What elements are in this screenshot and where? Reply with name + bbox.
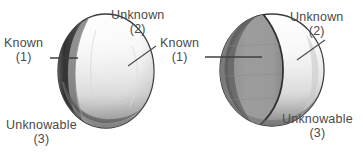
label-right-known-number: (1) bbox=[160, 50, 199, 64]
diagram-canvas: Known (1) Unknown (2) Unknowable (3) Kno… bbox=[0, 0, 363, 153]
label-right-known: Known (1) bbox=[160, 36, 199, 64]
label-left-unknowable-number: (3) bbox=[6, 132, 77, 146]
label-left-unknown-text: Unknown bbox=[111, 8, 165, 22]
label-right-unknown-number: (2) bbox=[290, 24, 344, 38]
label-left-unknowable: Unknowable (3) bbox=[6, 118, 77, 146]
label-left-known-text: Known bbox=[4, 36, 43, 50]
label-right-unknowable-number: (3) bbox=[282, 126, 353, 140]
label-left-unknown-number: (2) bbox=[111, 22, 165, 36]
label-right-unknown: Unknown (2) bbox=[290, 10, 344, 38]
label-left-unknowable-text: Unknowable bbox=[6, 118, 77, 132]
label-left-unknown: Unknown (2) bbox=[111, 8, 165, 36]
label-right-unknowable-text: Unknowable bbox=[282, 112, 353, 126]
label-right-unknowable: Unknowable (3) bbox=[282, 112, 353, 140]
label-right-known-text: Known bbox=[160, 36, 199, 50]
label-left-known-number: (1) bbox=[4, 50, 43, 64]
label-left-known: Known (1) bbox=[4, 36, 43, 64]
label-right-unknown-text: Unknown bbox=[290, 10, 344, 24]
